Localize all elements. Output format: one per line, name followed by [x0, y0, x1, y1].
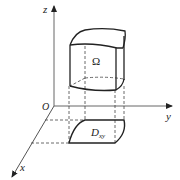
axes [12, 6, 172, 177]
region-label: Dxy [90, 126, 106, 140]
region-label-sub: xy [98, 132, 106, 140]
y-axis-label: y [165, 110, 171, 122]
x-axis [12, 106, 54, 177]
origin-label: O [42, 101, 49, 112]
region-label-main: D [90, 126, 99, 138]
z-axis-label: z [42, 3, 48, 15]
solid-label: Ω [92, 55, 100, 67]
projection-lines [31, 46, 124, 143]
projection-diagram: z y x O Ω Dxy [0, 0, 180, 180]
x-axis-label: x [19, 161, 25, 173]
